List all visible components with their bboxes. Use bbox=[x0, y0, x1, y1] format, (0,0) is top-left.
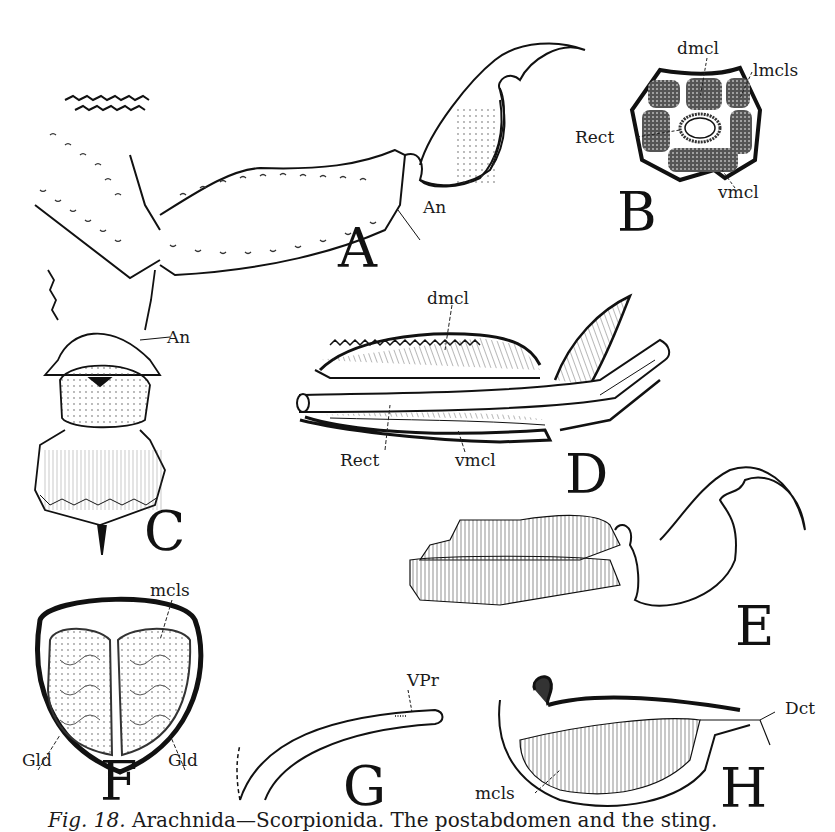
label-d-vmcl: vmcl bbox=[455, 452, 496, 469]
panel-letter-a: A bbox=[338, 222, 377, 276]
panel-g-drawing bbox=[237, 690, 443, 800]
label-d-rect: Rect bbox=[340, 452, 379, 469]
panel-f-drawing bbox=[38, 599, 201, 772]
panel-b-drawing bbox=[632, 58, 760, 188]
label-c-an: An bbox=[167, 329, 190, 346]
panel-letter-f: F bbox=[100, 755, 137, 809]
label-h-mcls: mcls bbox=[475, 785, 515, 802]
label-f-gld-left: Gld bbox=[22, 752, 52, 769]
panel-letter-d: D bbox=[565, 448, 608, 502]
label-a-an: An bbox=[423, 199, 446, 216]
label-d-dmcl: dmcl bbox=[427, 290, 469, 307]
caption-fig-label: Fig. 18. bbox=[48, 808, 126, 832]
panel-letter-g: G bbox=[343, 760, 386, 814]
panel-letter-h: H bbox=[720, 762, 767, 816]
panel-letter-b: B bbox=[617, 186, 657, 240]
label-h-dct: Dct bbox=[785, 700, 815, 717]
label-b-lmcls: lmcls bbox=[753, 62, 798, 79]
label-b-rect: Rect bbox=[575, 129, 614, 146]
caption-text: Arachnida—Scorpionida. The postabdomen a… bbox=[132, 808, 717, 832]
label-b-vmcl: vmcl bbox=[718, 184, 759, 201]
figure-caption: Fig. 18. Arachnida—Scorpionida. The post… bbox=[48, 808, 717, 832]
panel-letter-e: E bbox=[735, 600, 774, 654]
panel-letter-c: C bbox=[144, 505, 185, 559]
label-g-vpr: VPr bbox=[407, 672, 439, 689]
panel-a-drawing bbox=[35, 43, 585, 278]
label-b-dmcl: dmcl bbox=[677, 40, 719, 57]
label-f-mcls: mcls bbox=[150, 582, 190, 599]
panel-d-drawing bbox=[297, 296, 669, 452]
label-f-gld-right: Gld bbox=[168, 752, 198, 769]
